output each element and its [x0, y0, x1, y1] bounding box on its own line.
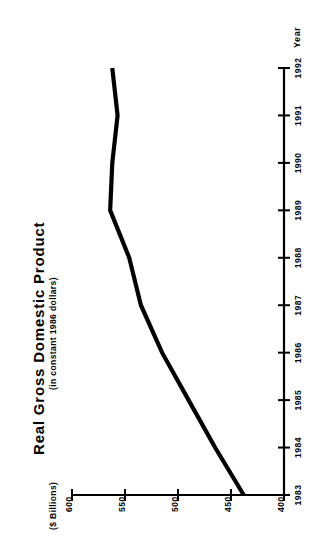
year-tick-label: 1990 [293, 152, 303, 173]
year-tick-label: 1992 [293, 58, 303, 79]
plot-area: 600550500450400 198319841985198619871988… [0, 0, 320, 556]
year-tick-group: 1983198419851986198719881989199019911992 [278, 58, 303, 506]
year-tick-label: 1986 [293, 342, 303, 363]
value-tick-label: 450 [223, 496, 233, 512]
value-tick-label: 500 [170, 496, 180, 512]
value-tick-label: 550 [117, 496, 127, 512]
year-tick-label: 1987 [293, 295, 303, 316]
chart-container: Real Gross Domestic Product (in constant… [0, 0, 320, 556]
value-tick-label: 400 [276, 496, 286, 512]
value-tick-label: 600 [64, 496, 74, 512]
year-tick-label: 1983 [293, 485, 303, 506]
data-series-line [110, 68, 244, 495]
year-tick-label: 1989 [293, 200, 303, 221]
year-tick-label: 1985 [293, 390, 303, 411]
year-tick-label: 1991 [293, 105, 303, 126]
value-tick-group: 600550500450400 [64, 489, 286, 512]
year-tick-label: 1988 [293, 247, 303, 268]
year-tick-label: 1984 [293, 437, 303, 458]
